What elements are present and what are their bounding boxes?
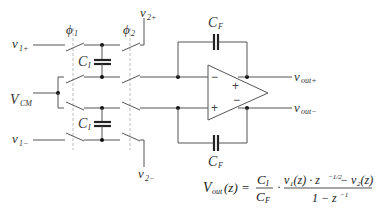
v1m-label: v	[12, 131, 18, 146]
transfer-function-equation: V out (z) = C I C F · v₁(z) · z −1/2 − v…	[203, 172, 373, 205]
switch-phi2-top	[122, 43, 140, 51]
svg-text:1+: 1+	[19, 44, 28, 53]
svg-text:−1: −1	[340, 191, 348, 199]
v2m-label: v	[138, 166, 144, 181]
cf-bottom-label: C	[208, 154, 218, 169]
svg-text:out−: out−	[301, 107, 317, 116]
vcm-label: V	[10, 92, 20, 107]
svg-text:I: I	[87, 61, 91, 70]
svg-text:−: −	[233, 93, 240, 107]
svg-text:1−: 1−	[19, 139, 28, 148]
svg-text:2−: 2−	[145, 174, 154, 183]
svg-text:out+: out+	[301, 76, 317, 85]
svg-text:out: out	[212, 187, 223, 196]
ci-bottom-label: C	[78, 116, 88, 131]
svg-text:(z) =: (z) =	[224, 180, 250, 195]
v1p-label: v	[12, 36, 18, 51]
svg-text:·: ·	[277, 180, 281, 194]
svg-text:F: F	[264, 196, 270, 205]
svg-text:2: 2	[131, 29, 135, 38]
ci-top-label: C	[78, 54, 88, 69]
svg-text:C: C	[257, 172, 266, 187]
switch-phi1-bottom	[66, 133, 84, 141]
switch-phi1-top	[66, 43, 84, 51]
switch-phi2-inner-bottom	[122, 102, 140, 110]
svg-text:F: F	[217, 22, 223, 31]
svg-text:+: +	[232, 79, 239, 93]
svg-text:v₁(z) · z: v₁(z) · z	[284, 173, 320, 187]
svg-text:2+: 2+	[147, 13, 156, 22]
voutp-label: v	[294, 69, 300, 84]
sc-integrator-diagram: ϕ 1 ϕ 2 v 1+ v 2+ C I V CM C I v 1−	[0, 0, 377, 212]
cf-top-label: C	[208, 15, 218, 30]
svg-text:CM: CM	[20, 99, 33, 108]
voutm-label: v	[294, 100, 300, 115]
phi1-label: ϕ	[66, 22, 73, 37]
svg-text:+: +	[211, 101, 218, 115]
svg-text:1: 1	[74, 29, 78, 38]
svg-text:−: −	[211, 70, 218, 84]
switch-phi2-inner-top	[122, 75, 140, 83]
switch-phi1-vcm-top	[66, 75, 84, 83]
svg-text:1 − z: 1 − z	[312, 191, 337, 205]
svg-text:− v₂(z): − v₂(z)	[340, 173, 373, 187]
svg-text:I: I	[265, 179, 269, 188]
v2p-label: v	[140, 5, 146, 20]
svg-text:I: I	[87, 123, 91, 132]
switch-phi1-vcm-bottom	[66, 102, 84, 110]
svg-text:F: F	[217, 161, 223, 170]
svg-text:C: C	[256, 189, 265, 204]
switch-phi2-bottom	[122, 133, 140, 141]
phi2-label: ϕ	[123, 22, 130, 37]
